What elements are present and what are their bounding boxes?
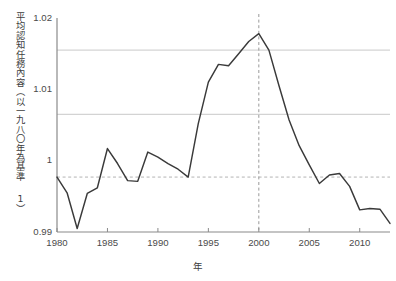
data-series-line: [57, 34, 390, 229]
x-tick-label-1980: 1980: [34, 237, 80, 248]
y-tick-label-1.01: 1.01: [16, 83, 52, 94]
reference-lines-group: [57, 14, 390, 232]
x-tick-label-1990: 1990: [135, 237, 181, 248]
y-tick-label-1.02: 1.02: [16, 12, 52, 23]
gridlines-group: [57, 50, 390, 114]
y-tick-label-0.99: 0.99: [16, 226, 52, 237]
x-tick-label-1985: 1985: [84, 237, 130, 248]
x-tick-label-2010: 2010: [337, 237, 383, 248]
chart-figure: 平均認知任務內容（以一九八〇年為基準 1） 0.9911.011.02 1980…: [0, 0, 396, 281]
x-axis-title: 年: [0, 259, 396, 273]
x-tick-label-1995: 1995: [185, 237, 231, 248]
x-tick-label-2005: 2005: [286, 237, 332, 248]
x-tick-label-2000: 2000: [236, 237, 282, 248]
y-tick-label-1: 1: [16, 154, 52, 165]
